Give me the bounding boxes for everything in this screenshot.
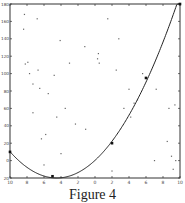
- x-tick-label: 4: [128, 180, 131, 185]
- scatter-point: [54, 75, 55, 76]
- curve-marker: [179, 3, 182, 6]
- scatter-point: [60, 153, 61, 154]
- scatter-point: [123, 108, 124, 109]
- scatter-point: [24, 14, 25, 15]
- scatter-point: [39, 88, 40, 89]
- scatter-point: [97, 58, 98, 59]
- scatter-point: [37, 18, 38, 19]
- y-tick-label: 140: [1, 36, 9, 41]
- scatter-point: [65, 108, 66, 109]
- axes: 108642024681020020406080100120140160180: [1, 2, 183, 186]
- y-tick-label: 20: [4, 141, 10, 146]
- plot-frame: [10, 4, 180, 178]
- scatter-point: [173, 169, 174, 170]
- y-tick-label: 180: [1, 2, 9, 7]
- scatter-point: [171, 156, 172, 157]
- y-tick-label: 80: [4, 89, 10, 94]
- figure-caption: Figure 4: [0, 187, 185, 203]
- y-tick-label: 60: [4, 106, 10, 111]
- x-tick-label: 2: [77, 180, 80, 185]
- y-tick-label: 0: [6, 158, 9, 163]
- scatter-point: [37, 70, 38, 71]
- x-tick-label: 8: [162, 180, 165, 185]
- scatter-point: [56, 117, 57, 118]
- scatter-point: [41, 138, 42, 139]
- y-tick-label: 40: [4, 123, 10, 128]
- scatter-points: [23, 14, 176, 172]
- x-tick-label: 6: [43, 180, 46, 185]
- y-tick-label: 20: [4, 176, 10, 181]
- scatter-point: [99, 63, 100, 64]
- scatter-point: [84, 46, 85, 47]
- scatter-point: [48, 93, 49, 94]
- x-tick-label: 6: [145, 180, 148, 185]
- scatter-point: [168, 108, 169, 109]
- x-tick-label: 10: [177, 180, 183, 185]
- scatter-point: [175, 160, 176, 161]
- curve-marker: [145, 77, 148, 80]
- scatter-point: [32, 83, 33, 84]
- curve-marker: [51, 175, 54, 178]
- y-tick-label: 120: [1, 54, 9, 59]
- scatter-point: [128, 89, 129, 90]
- scatter-point: [23, 29, 24, 30]
- scatter-point: [75, 123, 76, 124]
- scatter-point: [154, 160, 155, 161]
- scatter-point: [118, 38, 119, 39]
- scatter-point: [107, 18, 108, 19]
- scatter-point: [134, 103, 135, 104]
- scatter-point: [45, 134, 46, 135]
- curve-markers: [9, 3, 182, 178]
- x-tick-label: 10: [7, 180, 13, 185]
- scatter-point: [156, 89, 157, 90]
- scatter-point: [111, 170, 112, 171]
- y-tick-label: 160: [1, 19, 9, 24]
- scatter-point: [27, 62, 28, 63]
- x-tick-label: 8: [26, 180, 29, 185]
- x-tick-label: 0: [94, 180, 97, 185]
- x-tick-label: 2: [111, 180, 114, 185]
- scatter-point: [25, 63, 26, 64]
- scatter-point: [85, 129, 86, 130]
- scatter-point: [60, 40, 61, 41]
- fitted-curve: [10, 4, 180, 178]
- y-tick-label: 100: [1, 71, 9, 76]
- curve-marker: [111, 142, 114, 145]
- scatter-point: [32, 112, 33, 113]
- scatter-point: [29, 73, 30, 74]
- scatter-point: [142, 73, 143, 74]
- x-tick-label: 4: [60, 180, 63, 185]
- chart: 108642024681020020406080100120140160180: [0, 0, 185, 188]
- curve-marker: [9, 151, 12, 154]
- scatter-point: [130, 117, 131, 118]
- scatter-point: [69, 63, 70, 64]
- scatter-point: [174, 104, 175, 105]
- scatter-point: [43, 164, 44, 165]
- scatter-point: [116, 70, 117, 71]
- scatter-point: [167, 141, 168, 142]
- scatter-point: [98, 53, 99, 54]
